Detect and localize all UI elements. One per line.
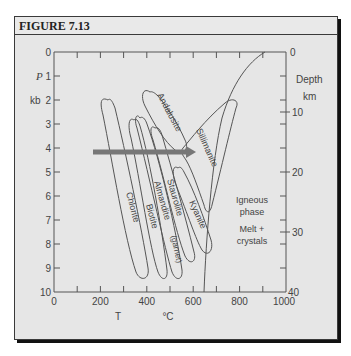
t-axis-top-ticks [77, 52, 263, 58]
p-tick-9: 9 [45, 263, 51, 274]
t-axis-label: T [115, 311, 121, 322]
p-tick-6: 6 [45, 191, 51, 202]
depth-tick-30: 30 [292, 227, 304, 238]
depth-axis-ticks [280, 76, 290, 268]
depth-tick-20: 20 [292, 167, 304, 178]
p-tick-1: 1 [45, 71, 51, 82]
chlorite-label: Chlorite [124, 191, 142, 224]
t-axis-ticks [77, 286, 263, 292]
melt-label: Melt + [240, 224, 265, 234]
t-tick-1000: 1000 [273, 296, 296, 307]
p-axis-label: P [35, 70, 43, 82]
plot-axes [54, 52, 286, 292]
kyanite-label: Kyanite [187, 199, 208, 231]
t-tick-800: 800 [231, 296, 248, 307]
p-tick-10: 10 [40, 287, 52, 298]
depth-tick-10: 10 [292, 107, 304, 118]
p-tick-2: 2 [45, 95, 51, 106]
heating-arrow [93, 146, 196, 158]
garnet-label: (garnet) [169, 235, 184, 265]
p-tick-7: 7 [45, 215, 51, 226]
igneous-annotation: Igneous phase Melt + crystals [236, 195, 269, 246]
p-tick-4: 4 [45, 143, 51, 154]
depth-axis-label: Depth [296, 74, 323, 85]
andalusite-label: Andalusite [155, 91, 184, 133]
p-axis-ticks [54, 76, 60, 268]
p-unit-label: kb [30, 95, 41, 106]
t-tick-200: 200 [92, 296, 109, 307]
p-tick-5: 5 [45, 167, 51, 178]
depth-tick-0: 0 [290, 47, 296, 58]
depth-unit-label: km [303, 91, 316, 102]
p-axis-labels: 0 1 2 3 4 5 6 7 8 9 10 [40, 47, 52, 298]
pt-diagram: 0 1 2 3 4 5 6 7 8 9 10 P kb 0 10 20 30 4… [0, 0, 351, 356]
phase-label: phase [240, 207, 265, 217]
solidus-curve [204, 52, 265, 292]
p-tick-3: 3 [45, 119, 51, 130]
t-axis-labels: 0 200 400 600 800 1000 [51, 296, 295, 307]
t-tick-400: 400 [138, 296, 155, 307]
chlorite-field [101, 99, 148, 278]
igneous-label: Igneous [236, 195, 269, 205]
t-tick-0: 0 [51, 296, 57, 307]
p-tick-0: 0 [45, 47, 51, 58]
t-tick-600: 600 [185, 296, 202, 307]
crystals-label: crystals [237, 236, 268, 246]
t-unit-label: °C [162, 311, 173, 322]
p-tick-8: 8 [45, 239, 51, 250]
